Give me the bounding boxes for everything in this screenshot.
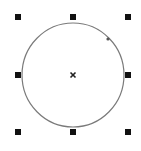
handle-bottom-middle[interactable]: [70, 129, 76, 135]
handle-top-right[interactable]: [125, 14, 131, 20]
handle-middle-left[interactable]: [15, 72, 21, 78]
handle-top-middle[interactable]: [70, 14, 76, 20]
handle-middle-right[interactable]: [125, 72, 131, 78]
handle-bottom-left[interactable]: [15, 129, 21, 135]
center-x-cross-icon[interactable]: [71, 73, 76, 78]
handle-top-left[interactable]: [15, 14, 21, 20]
drawing-canvas[interactable]: [0, 0, 141, 151]
handle-bottom-right[interactable]: [125, 129, 131, 135]
ellipse-node[interactable]: [106, 37, 109, 40]
